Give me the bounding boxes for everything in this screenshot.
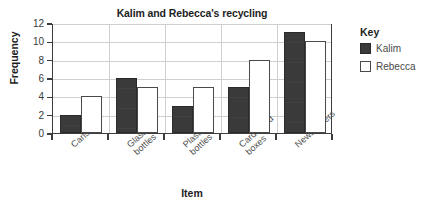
bar-rebecca-4 bbox=[305, 41, 326, 133]
y-axis-tick bbox=[47, 23, 52, 25]
y-axis-tick-label: 6 bbox=[18, 73, 44, 84]
outlined-white-square-icon bbox=[360, 61, 371, 72]
y-axis-tick-label: 10 bbox=[18, 36, 44, 47]
legend-title: Key bbox=[360, 26, 426, 38]
y-axis-tick bbox=[47, 60, 52, 62]
legend-item-label: Rebecca bbox=[376, 61, 415, 72]
bar-kalim-1 bbox=[116, 78, 137, 133]
legend: Key Kalim Rebecca bbox=[360, 26, 426, 79]
gridline-vertical bbox=[221, 24, 222, 133]
bar-kalim-0 bbox=[60, 115, 81, 133]
bar-rebecca-0 bbox=[81, 96, 102, 133]
gridline-vertical bbox=[109, 24, 110, 133]
y-axis-tick-label: 4 bbox=[18, 91, 44, 102]
x-axis-tick bbox=[163, 134, 165, 140]
x-axis-tick bbox=[275, 134, 277, 140]
bar-rebecca-3 bbox=[249, 60, 270, 133]
legend-item-label: Kalim bbox=[376, 43, 401, 54]
bar-kalim-2 bbox=[172, 106, 193, 134]
x-axis-label: Item bbox=[52, 187, 332, 199]
chart-title: Kalim and Rebecca's recycling bbox=[52, 7, 332, 19]
bar-rebecca-1 bbox=[137, 87, 158, 133]
y-axis-tick-label: 8 bbox=[18, 55, 44, 66]
gridline-vertical bbox=[277, 24, 278, 133]
x-axis-tick bbox=[51, 134, 53, 140]
filled-dark-square-icon bbox=[360, 43, 371, 54]
gridline-vertical bbox=[165, 24, 166, 133]
y-axis-tick-label: 2 bbox=[18, 110, 44, 121]
bar-kalim-3 bbox=[228, 87, 249, 133]
x-axis-tick bbox=[331, 134, 333, 140]
x-axis-tick bbox=[219, 134, 221, 140]
bar-chart: Kalim and Rebecca's recycling Frequency … bbox=[0, 0, 428, 207]
bar-kalim-4 bbox=[284, 32, 305, 133]
legend-item-kalim: Kalim bbox=[360, 43, 426, 54]
y-axis-tick-label: 12 bbox=[18, 18, 44, 29]
y-axis-tick bbox=[47, 42, 52, 44]
y-axis-tick bbox=[47, 115, 52, 117]
x-axis-tick bbox=[107, 134, 109, 140]
plot-area bbox=[52, 24, 332, 134]
y-axis-tick bbox=[47, 97, 52, 99]
y-axis-tick-label: 0 bbox=[18, 128, 44, 139]
bar-rebecca-2 bbox=[193, 87, 214, 133]
y-axis-tick bbox=[47, 78, 52, 80]
gridline-horizontal bbox=[53, 24, 331, 25]
legend-item-rebecca: Rebecca bbox=[360, 61, 426, 72]
